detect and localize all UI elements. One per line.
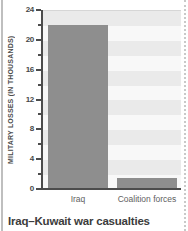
y-tick-label: 4 bbox=[14, 154, 34, 164]
chart-title: Iraq–Kuwait war casualties bbox=[8, 215, 184, 227]
right-dotted-border bbox=[184, 0, 186, 231]
y-tick-label: 12 bbox=[14, 95, 34, 105]
casualties-bar-chart: MILITARY LOSSES (IN THOUSANDS) 048121620… bbox=[0, 0, 188, 231]
y-tick-label: 16 bbox=[14, 65, 34, 75]
y-tick-label: 8 bbox=[14, 124, 34, 134]
y-axis-line bbox=[41, 10, 43, 190]
y-tick-label: 0 bbox=[14, 184, 34, 194]
bar-iraq bbox=[48, 25, 108, 189]
left-border-rule bbox=[1, 0, 3, 231]
x-axis-line bbox=[41, 188, 181, 190]
y-tick-label: 24 bbox=[14, 5, 34, 15]
x-category-label: Iraq bbox=[43, 194, 113, 204]
x-category-label: Coalition forces bbox=[112, 194, 182, 204]
y-tick-label: 20 bbox=[14, 35, 34, 45]
